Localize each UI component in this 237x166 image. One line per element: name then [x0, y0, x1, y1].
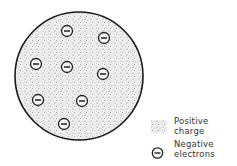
- legend-positive-line1: Positive: [174, 117, 208, 126]
- electron: [62, 62, 73, 73]
- electron-minus-icon: [152, 148, 162, 158]
- legend-negative-line2: electrons: [174, 150, 215, 159]
- electron: [62, 26, 73, 37]
- electron: [59, 119, 70, 130]
- stipple-swatch-icon: [151, 120, 167, 133]
- electron: [98, 69, 109, 80]
- electron: [99, 33, 110, 44]
- electron: [31, 59, 42, 70]
- electron: [77, 96, 88, 107]
- electron: [33, 95, 44, 106]
- atom-sphere: [15, 12, 143, 140]
- legend-negative-line1: Negative: [174, 140, 214, 149]
- legend-positive-line2: charge: [174, 127, 204, 136]
